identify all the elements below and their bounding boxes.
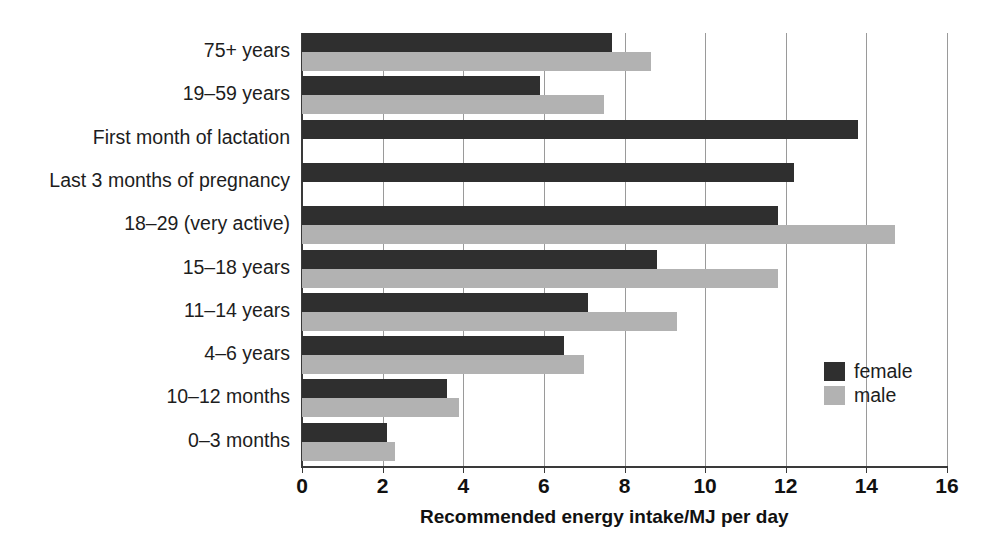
legend-item-male: male [824, 384, 913, 406]
bar-female [302, 206, 778, 225]
bar-group [302, 163, 947, 206]
bar-female [302, 33, 612, 52]
bar-male [302, 398, 459, 417]
legend-label-female: female [854, 362, 913, 381]
bar-group [302, 76, 947, 119]
category-label: First month of lactation [2, 126, 302, 149]
x-tick-label: 16 [935, 474, 958, 498]
x-tick-mark [544, 466, 545, 473]
x-tick-mark [786, 466, 787, 473]
bar-group [302, 250, 947, 293]
bar-female [302, 379, 447, 398]
bar-group [302, 423, 947, 466]
x-tick-label: 2 [377, 474, 389, 498]
x-tick-label: 6 [538, 474, 550, 498]
bar-male [302, 442, 395, 461]
bar-female [302, 76, 540, 95]
bar-group [302, 206, 947, 249]
x-tick-label: 10 [693, 474, 716, 498]
bar-female [302, 293, 588, 312]
legend-item-female: female [824, 360, 913, 382]
category-label: 75+ years [2, 39, 302, 62]
bar-male [302, 312, 677, 331]
x-tick-mark [625, 466, 626, 473]
category-label: 0–3 months [2, 429, 302, 452]
energy-intake-bar-chart: 75+ years19–59 yearsFirst month of lacta… [0, 0, 998, 553]
category-label: 11–14 years [2, 299, 302, 322]
bar-group [302, 120, 947, 163]
bar-female [302, 423, 387, 442]
x-tick-label: 4 [457, 474, 469, 498]
bar-female [302, 120, 858, 139]
x-tick-mark [947, 466, 948, 473]
x-tick-label: 8 [619, 474, 631, 498]
category-label: 4–6 years [2, 342, 302, 365]
bar-male [302, 355, 584, 374]
gridline [947, 33, 948, 466]
bar-female [302, 163, 794, 182]
bar-male [302, 95, 604, 114]
x-tick-mark [463, 466, 464, 473]
category-label: 15–18 years [2, 256, 302, 279]
legend-label-male: male [854, 386, 896, 405]
category-label: 18–29 (very active) [2, 212, 302, 235]
legend-swatch-male-icon [824, 386, 845, 405]
category-label: Last 3 months of pregnancy [2, 169, 302, 192]
x-tick-mark [866, 466, 867, 473]
bar-group [302, 33, 947, 76]
bar-male [302, 225, 895, 244]
bar-group [302, 293, 947, 336]
chart-legend: female male [824, 360, 913, 408]
x-tick-mark [383, 466, 384, 473]
x-tick-mark [705, 466, 706, 473]
x-tick-label: 12 [774, 474, 797, 498]
bar-female [302, 336, 564, 355]
bar-female [302, 250, 657, 269]
x-axis-title: Recommended energy intake/MJ per day [420, 506, 789, 528]
bar-male [302, 269, 778, 288]
category-label: 19–59 years [2, 82, 302, 105]
bar-male [302, 52, 651, 71]
legend-swatch-female-icon [824, 362, 845, 381]
category-labels: 75+ years19–59 yearsFirst month of lacta… [0, 33, 302, 466]
x-tick-label: 0 [296, 474, 308, 498]
category-label: 10–12 months [2, 385, 302, 408]
x-tick-label: 14 [855, 474, 878, 498]
x-tick-mark [302, 466, 303, 473]
